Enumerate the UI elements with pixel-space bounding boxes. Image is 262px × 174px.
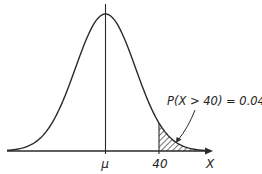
annotation-arrow [178, 110, 195, 140]
annotation-arrowhead-icon [176, 137, 182, 143]
normal-distribution-chart: μ 40 X P(X > 40) = 0.04 [0, 0, 262, 174]
x-axis-label: X [205, 157, 215, 171]
mu-label: μ [100, 157, 109, 171]
shaded-tail-region [159, 123, 205, 151]
x-axis-arrow-icon [205, 148, 213, 155]
threshold-label: 40 [152, 157, 168, 171]
probability-annotation: P(X > 40) = 0.04 [167, 94, 262, 108]
